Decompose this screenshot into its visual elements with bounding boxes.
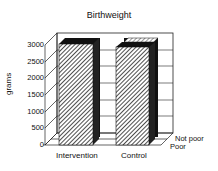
depth-label-poor: Poor bbox=[170, 142, 186, 151]
x-tick-control: Control bbox=[121, 151, 147, 160]
x-tick-intervention: Intervention bbox=[56, 151, 98, 160]
